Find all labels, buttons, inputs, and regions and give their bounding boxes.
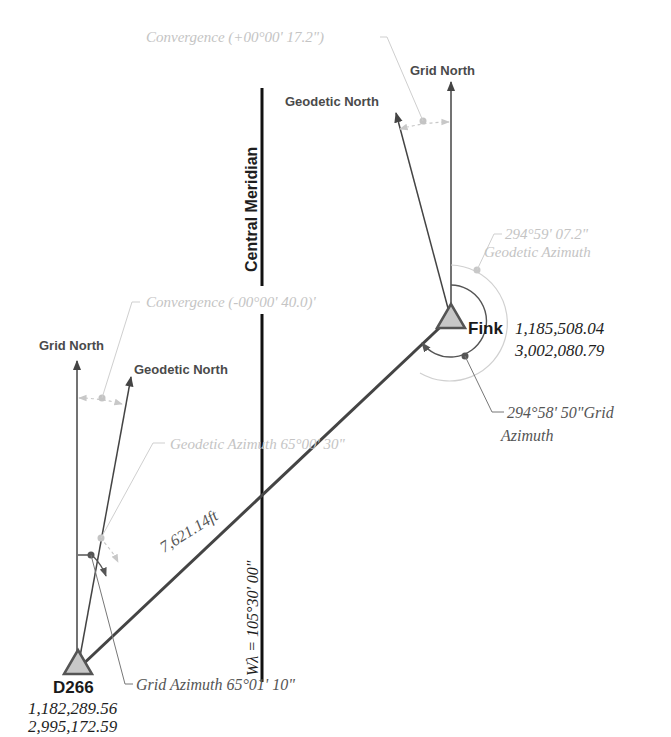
fink-grid-azimuth-value: 294°58' 50"Grid <box>507 404 615 421</box>
d266-northing: 1,182,289.56 <box>28 699 118 718</box>
fink-geodetic-azimuth-value: 294°59' 07.2" <box>505 226 589 242</box>
d266-geodetic-north-label: Geodetic North <box>134 362 228 377</box>
fink-grid-north-label: Grid North <box>410 63 475 78</box>
d266-geodetic-north-arrow <box>79 377 131 662</box>
fink-grid-azimuth-text: Azimuth <box>500 427 553 444</box>
central-meridian: Central Meridian Wλ = 105°30' 00" <box>243 88 262 682</box>
d266-geodetic-azimuth-label: Geodetic Azimuth 65°00' 30" <box>170 436 345 452</box>
fink-geodetic-azimuth-text: Geodetic Azimuth <box>484 244 591 260</box>
fink-station-name: Fink <box>468 319 503 338</box>
d266-grid-north-label: Grid North <box>39 338 104 353</box>
fink-geodetic-north-arrow <box>396 113 449 312</box>
d266-easting: 2,995,172.59 <box>28 717 117 736</box>
distance-label: 7,621.14ft <box>157 506 222 556</box>
d266-station-name: D266 <box>53 678 94 697</box>
central-meridian-label: Central Meridian <box>243 147 260 272</box>
station-d266: Grid North Geodetic North Convergence (-… <box>28 294 345 718</box>
fink-northing: 1,185,508.04 <box>515 319 605 338</box>
d266-easting-wrapper: 2,995,172.59 <box>28 717 117 737</box>
fink-station-marker <box>437 304 465 328</box>
d266-convergence-label: Convergence (-00°00' 40.0)' <box>146 294 317 311</box>
central-meridian-longitude-label: Wλ = 105°30' 00" <box>244 560 261 676</box>
d266-grid-azimuth-label: Grid Azimuth 65°01' 10" <box>136 676 295 693</box>
d266-station-marker <box>64 650 92 674</box>
fink-easting: 3,002,080.79 <box>514 341 605 360</box>
fink-convergence-label: Convergence (+00°00' 17.2") <box>146 29 324 46</box>
fink-geodetic-north-label: Geodetic North <box>285 94 379 109</box>
